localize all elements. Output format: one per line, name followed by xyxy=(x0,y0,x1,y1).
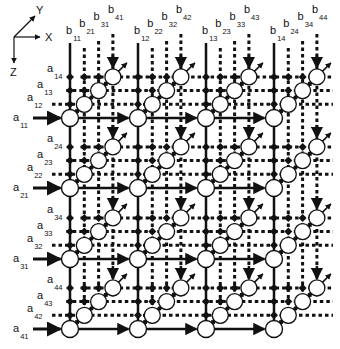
junction-marker xyxy=(299,73,307,81)
junction-marker xyxy=(95,143,103,151)
pe-sub-node xyxy=(91,83,107,99)
pe-main-node xyxy=(198,321,215,338)
junction-marker xyxy=(284,143,292,151)
pe-main-node xyxy=(130,110,147,127)
junction-marker xyxy=(134,284,142,292)
pe-sub-node xyxy=(144,96,160,112)
pe-sub-node xyxy=(173,69,189,85)
junction-marker xyxy=(299,284,307,292)
pe-sub-node xyxy=(280,166,296,182)
pe-main-node xyxy=(62,180,79,197)
junction-marker xyxy=(202,311,210,319)
junction-marker xyxy=(148,298,156,306)
label-b23: b23 xyxy=(215,17,230,36)
junction-marker xyxy=(66,298,74,306)
junction-marker xyxy=(202,143,210,151)
junction-marker xyxy=(202,214,210,222)
pe-sub-node xyxy=(76,307,92,323)
pe-main-node xyxy=(266,110,283,127)
label-a21: a21 xyxy=(13,181,28,200)
junction-marker xyxy=(202,100,210,108)
junction-marker xyxy=(134,241,142,249)
pe-sub-node xyxy=(295,153,311,169)
junction-marker xyxy=(148,73,156,81)
junction-marker xyxy=(270,157,278,165)
junction-marker xyxy=(216,87,224,95)
junction-marker xyxy=(284,284,292,292)
label-b41: b41 xyxy=(108,3,123,22)
y-axis-arrow xyxy=(14,16,35,37)
output-arrow xyxy=(186,204,195,213)
junction-marker xyxy=(284,87,292,95)
label-a31: a31 xyxy=(13,252,28,271)
label-a43: a43 xyxy=(37,289,52,308)
pe-sub-node xyxy=(105,139,121,155)
output-arrow xyxy=(118,204,127,213)
label-b43: b43 xyxy=(244,3,259,22)
pe-sub-node xyxy=(105,210,121,226)
pe-sub-node xyxy=(295,294,311,310)
systolic-array-diagram: Y X Z a11a12a13a14a21a22a23a24a31a32a33a… xyxy=(0,0,340,349)
output-arrow xyxy=(118,274,127,283)
junction-marker xyxy=(216,73,224,81)
label-a41: a41 xyxy=(13,322,28,341)
pe-sub-node xyxy=(309,69,325,85)
junction-marker xyxy=(95,284,103,292)
output-arrow xyxy=(186,133,195,142)
pe-sub-node xyxy=(159,83,175,99)
label-b24: b24 xyxy=(283,17,298,36)
pe-sub-node xyxy=(159,224,175,240)
junction-marker xyxy=(202,284,210,292)
junction-marker xyxy=(134,170,142,178)
pe-main-node xyxy=(62,251,79,268)
junction-marker xyxy=(134,157,142,165)
label-a44: a44 xyxy=(47,273,62,292)
output-arrow xyxy=(254,133,263,142)
junction-marker xyxy=(80,87,88,95)
junction-marker xyxy=(80,228,88,236)
junction-marker xyxy=(270,311,278,319)
pe-sub-node xyxy=(241,69,257,85)
junction-marker xyxy=(148,87,156,95)
junction-marker xyxy=(80,214,88,222)
pe-main-node xyxy=(266,321,283,338)
junction-marker xyxy=(134,87,142,95)
junction-marker xyxy=(216,228,224,236)
junction-marker xyxy=(66,100,74,108)
x-axis-label: X xyxy=(45,31,53,43)
pe-sub-node xyxy=(173,210,189,226)
label-a32: a32 xyxy=(27,232,42,251)
pe-sub-node xyxy=(212,237,228,253)
junction-marker xyxy=(270,214,278,222)
pe-main-node xyxy=(198,180,215,197)
junction-marker xyxy=(134,228,142,236)
junction-marker xyxy=(163,284,171,292)
pe-main-node xyxy=(130,180,147,197)
label-b34: b34 xyxy=(298,10,313,29)
junction-marker xyxy=(148,143,156,151)
pe-main-node xyxy=(198,251,215,268)
junction-marker xyxy=(284,157,292,165)
junction-marker xyxy=(202,228,210,236)
junction-marker xyxy=(163,214,171,222)
junction-marker xyxy=(299,143,307,151)
pe-sub-node xyxy=(309,210,325,226)
junction-marker xyxy=(231,284,239,292)
junction-marker xyxy=(270,170,278,178)
output-arrow xyxy=(186,274,195,283)
pe-main-node xyxy=(130,251,147,268)
pe-sub-node xyxy=(91,294,107,310)
junction-marker xyxy=(163,73,171,81)
junction-marker xyxy=(66,170,74,178)
pe-sub-node xyxy=(173,139,189,155)
pe-sub-node xyxy=(241,139,257,155)
junction-marker xyxy=(270,284,278,292)
junction-marker xyxy=(134,73,142,81)
label-a24: a24 xyxy=(47,132,62,151)
junction-marker xyxy=(270,298,278,306)
output-arrow xyxy=(322,274,331,283)
junction-marker xyxy=(202,170,210,178)
label-a13: a13 xyxy=(37,78,52,97)
pe-main-node xyxy=(130,321,147,338)
junction-marker xyxy=(95,73,103,81)
